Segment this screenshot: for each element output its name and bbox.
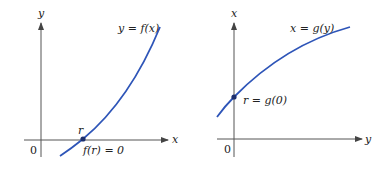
left-origin-label: 0 xyxy=(30,144,37,157)
right-graph: x y 0 x = g(y) r = g(0) xyxy=(217,7,372,157)
right-y-axis-label: y xyxy=(364,133,372,146)
intercept-point xyxy=(231,94,236,99)
curve-f-label: y = f(x) xyxy=(117,22,159,35)
left-graph: y x 0 y = f(x) r f(r) = 0 xyxy=(24,7,179,157)
curve-g-label: x = g(y) xyxy=(290,22,334,35)
left-x-axis-label: x xyxy=(172,133,179,146)
left-y-axis-label: y xyxy=(37,7,45,20)
point-r-label: r xyxy=(78,124,84,137)
root-point-r xyxy=(80,136,85,141)
intercept-annotation: r = g(0) xyxy=(243,94,287,107)
right-x-axis-label: x xyxy=(231,7,238,20)
right-origin-label: 0 xyxy=(224,143,231,156)
root-annotation: f(r) = 0 xyxy=(82,144,124,157)
curve-f xyxy=(60,27,160,156)
diagram-canvas: y x 0 y = f(x) r f(r) = 0 x y 0 x = g(y)… xyxy=(0,0,379,169)
